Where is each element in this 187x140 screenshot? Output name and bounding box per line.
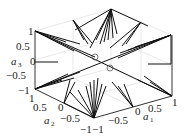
x-axis-label: a [143,110,149,122]
y-tick-neg0.5: −0.5 [60,112,80,124]
z-tick-neg0.5: −0.5 [6,69,26,81]
y-tick-0.5: 0.5 [33,101,47,113]
x-tick-neg1: −1 [92,123,104,135]
z-axis-label: a [11,55,17,67]
z-tick-0: 0 [30,55,36,67]
z-tick-0.5: 0.5 [16,40,30,52]
x-tick-1: 1 [172,96,178,108]
z-axis-label-sub: 3 [18,61,22,69]
x-tick-0: 0 [135,105,141,117]
x-axis-ticks: −1 −0.5 0 0.5 1 [92,96,178,135]
x-axis-label-sub: 1 [150,116,154,124]
y-axis-label-sub: 2 [51,120,55,128]
z-tick-neg1: −1 [18,84,30,96]
y-tick-neg1: −1 [80,123,92,135]
x-tick-neg0.5: −0.5 [108,114,128,126]
z-tick-1: 1 [28,25,34,37]
quiver-3d-plot: 1 0.5 0 −0.5 −1 1 0.5 0 −0.5 −1 −1 −0.5 … [0,0,187,140]
x-tick-0.5: 0.5 [148,102,162,114]
y-axis-label: a [44,114,50,126]
